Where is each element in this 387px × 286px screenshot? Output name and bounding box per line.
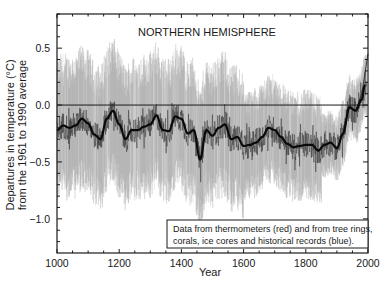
- legend: Data from thermometers (red) and from tr…: [167, 220, 373, 248]
- x-axis-title: Year: [199, 266, 222, 278]
- plot-area: [57, 39, 368, 230]
- x-tick-label: 1400: [170, 257, 194, 269]
- y-axis-title-line-2: from the 1961 to 1990 average: [16, 60, 28, 210]
- x-tick-label: 1800: [294, 257, 318, 269]
- legend-line-1: Data from thermometers (red) and from tr…: [173, 224, 373, 234]
- y-tick-label: −1.0: [29, 213, 50, 225]
- x-tick-label: 1000: [45, 257, 69, 269]
- y-axis-tick-labels: 0.50.0−0.5−1.0: [29, 42, 50, 225]
- y-tick-label: 0.5: [35, 42, 50, 54]
- y-axis-title-line-1: Departures in temperature (°C): [4, 59, 16, 210]
- chart-title: NORTHERN HEMISPHERE: [138, 26, 276, 38]
- y-tick-label: −0.5: [29, 156, 50, 168]
- y-axis-title: Departures in temperature (°C) from the …: [4, 59, 28, 210]
- legend-line-2: corals, ice cores and historical records…: [173, 236, 354, 246]
- x-tick-label: 2000: [356, 257, 380, 269]
- y-tick-label: 0.0: [35, 99, 50, 111]
- temperature-chart: 100012001400160018002000 0.50.0−0.5−1.0 …: [0, 0, 387, 286]
- x-tick-label: 1600: [232, 257, 256, 269]
- x-tick-label: 1200: [108, 257, 132, 269]
